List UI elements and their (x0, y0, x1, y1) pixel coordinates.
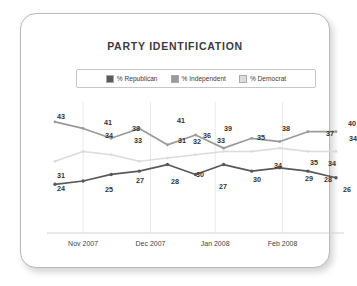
data-point-independent[interactable] (250, 137, 253, 140)
data-point-independent[interactable] (307, 130, 310, 133)
data-point-democrat[interactable] (166, 157, 169, 160)
data-label-democrat: 35 (310, 158, 318, 167)
data-label-independent: 38 (282, 124, 290, 133)
data-label-independent: 41 (104, 118, 112, 127)
data-point-independent[interactable] (335, 130, 338, 133)
data-point-republican[interactable] (110, 173, 113, 176)
chart-legend: % Republican % Independent % Democrat (76, 69, 316, 88)
data-point-democrat[interactable] (194, 153, 197, 156)
x-axis-tick-label: Nov 2007 (68, 240, 98, 247)
data-label-democrat: 33 (134, 136, 142, 145)
data-label-republican: 27 (136, 176, 144, 185)
legend-label-republican: % Republican (117, 75, 158, 82)
legend-label-democrat: % Democrat (250, 75, 286, 82)
data-label-independent: 41 (177, 116, 185, 125)
data-label-independent: 35 (257, 133, 265, 142)
legend-item-independent[interactable]: % Independent (171, 75, 226, 83)
legend-label-independent: % Independent (182, 75, 226, 82)
page-title: PARTY IDENTIFICATION (21, 40, 329, 52)
data-label-republican: 30 (253, 175, 261, 184)
data-label-republican: 29 (305, 174, 313, 183)
data-label-republican: 30 (196, 170, 204, 179)
data-label-republican: 28 (171, 177, 179, 186)
plot-area: 2425272830273034292826434138413639353837… (47, 102, 344, 237)
data-point-democrat[interactable] (138, 160, 141, 163)
data-point-democrat[interactable] (335, 150, 338, 153)
data-label-independent: 38 (132, 124, 140, 133)
data-point-republican[interactable] (166, 163, 169, 166)
data-label-democrat: 33 (217, 136, 225, 145)
data-label-republican: 25 (105, 185, 113, 194)
data-point-republican[interactable] (334, 176, 337, 179)
data-label-republican: 27 (219, 182, 227, 191)
data-point-independent[interactable] (222, 147, 225, 150)
x-axis-tick-label: Jan 2008 (201, 240, 230, 247)
x-axis-tick-label: Feb 2008 (268, 240, 298, 247)
data-point-democrat[interactable] (278, 147, 281, 150)
data-point-democrat[interactable] (110, 153, 113, 156)
data-point-independent[interactable] (166, 143, 169, 146)
legend-swatch-democrat (239, 75, 247, 83)
data-label-democrat: 32 (193, 137, 201, 146)
data-label-democrat: 34 (349, 134, 357, 143)
data-label-democrat: 31 (178, 136, 186, 145)
x-axis-labels: Nov 2007Dec 2007Jan 2008Feb 2008 (47, 240, 344, 254)
x-axis-tick-label: Dec 2007 (136, 240, 166, 247)
legend-item-republican[interactable]: % Republican (106, 75, 158, 83)
data-point-democrat[interactable] (54, 160, 57, 163)
data-label-democrat: 34 (328, 159, 336, 168)
data-point-democrat[interactable] (82, 150, 85, 153)
data-label-democrat: 34 (105, 131, 113, 140)
legend-swatch-republican (106, 75, 114, 83)
chart-card: PARTY IDENTIFICATION % Republican % Inde… (20, 13, 330, 268)
data-point-republican[interactable] (250, 169, 253, 172)
data-point-republican[interactable] (138, 169, 141, 172)
data-label-democrat: 31 (57, 171, 65, 180)
data-label-republican: 34 (274, 161, 282, 170)
data-point-democrat[interactable] (222, 150, 225, 153)
data-point-republican[interactable] (306, 169, 309, 172)
data-point-democrat[interactable] (250, 150, 253, 153)
data-label-republican: 28 (324, 175, 332, 184)
data-label-republican: 26 (343, 185, 351, 194)
data-point-independent[interactable] (278, 140, 281, 143)
data-point-democrat[interactable] (307, 150, 310, 153)
data-point-independent[interactable] (82, 127, 85, 130)
data-label-independent: 37 (326, 129, 334, 138)
data-point-independent[interactable] (54, 120, 57, 123)
data-point-republican[interactable] (81, 179, 84, 182)
data-label-independent: 40 (348, 119, 356, 128)
data-label-independent: 36 (203, 131, 211, 140)
data-point-republican[interactable] (222, 163, 225, 166)
data-label-independent: 43 (57, 112, 65, 121)
legend-item-democrat[interactable]: % Democrat (239, 75, 286, 83)
legend-swatch-independent (171, 75, 179, 83)
data-label-republican: 24 (57, 184, 65, 193)
data-label-independent: 39 (224, 124, 232, 133)
